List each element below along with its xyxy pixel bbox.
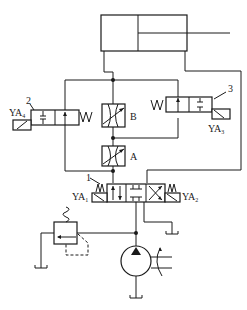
valve-1-left-solenoid-label: YA1 bbox=[72, 191, 88, 203]
hydraulic-pump bbox=[121, 246, 172, 298]
valve-3-solenoid-label: YA3 bbox=[208, 123, 224, 135]
valve-1-number: 1 bbox=[86, 172, 91, 183]
valve-2-solenoid-label: YA4 bbox=[9, 107, 25, 119]
solenoid-valve-3: 3 YA3 bbox=[151, 83, 233, 135]
directional-valve-1: 1 YA1 YA2 bbox=[72, 172, 198, 203]
throttle-valve-a: A bbox=[102, 146, 138, 166]
hydraulic-cylinder bbox=[101, 15, 230, 51]
hydraulic-circuit-diagram: B A 2 YA4 3 bbox=[0, 0, 247, 310]
valve-3-number: 3 bbox=[228, 83, 233, 94]
solenoid-valve-2: 2 YA4 bbox=[9, 95, 92, 130]
throttle-valve-b: B bbox=[102, 104, 137, 127]
throttle-b-label: B bbox=[130, 111, 137, 122]
valve-1-right-solenoid-label: YA2 bbox=[182, 191, 198, 203]
throttle-a-label: A bbox=[130, 151, 138, 162]
